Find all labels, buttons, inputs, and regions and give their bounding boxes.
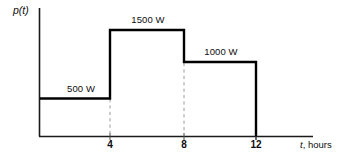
guide-lines-group [110,63,184,134]
step-value-label-1500w: 1500 W [120,15,176,25]
x-tick-label-12: 12 [246,140,266,150]
step-value-label-500w: 500 W [54,84,108,94]
axis-group [39,8,313,137]
x-axis-title-unit: , hours [303,139,332,150]
y-axis-title: p(t) [13,5,29,16]
power-step-chart-figure: p(t) t, hours 4 8 12 500 W 1500 W 1000 W [0,0,345,158]
x-axis-title: t, hours [300,140,332,150]
x-tick-label-8: 8 [174,140,194,150]
x-tick-label-4: 4 [100,140,120,150]
step-value-label-1000w: 1000 W [193,47,249,57]
